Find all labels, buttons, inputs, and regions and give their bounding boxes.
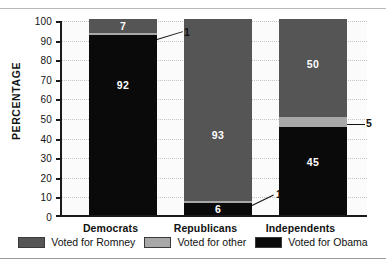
bar-segment-rep-romney[interactable]: 93 [184,19,252,201]
y-tick-mark-90 [56,41,62,43]
legend-label-other: Voted for other [177,236,246,248]
bar-segment-ind-obama[interactable]: 45 [279,127,347,215]
y-tick-mark-50 [56,119,62,121]
top-divider-rule [0,8,386,9]
y-tick-70: 70 [40,76,52,86]
callout-rep-other: 1 [276,189,282,200]
bar-value-ind-romney: 50 [307,59,319,70]
legend-swatch-obama-icon [255,237,282,248]
y-axis-tick-labels: 100 90 80 70 60 50 40 30 20 10 0 [0,21,52,217]
chart-figure: PERCENTAGE 100 90 80 70 60 50 40 30 20 1… [0,0,386,270]
y-tick-mark-100 [56,21,62,23]
plot-area: 7 1 92 93 1 6 50 [60,21,367,217]
legend-label-romney: Voted for Romney [51,236,135,248]
y-tick-mark-20 [56,178,62,180]
y-tick-mark-40 [56,139,62,141]
bar-value-rep-obama: 6 [215,204,221,215]
y-tick-50: 50 [40,115,52,125]
legend-swatch-romney-icon [18,237,45,248]
bar-segment-dem-romney[interactable]: 7 [89,19,157,33]
y-tick-100: 100 [35,17,52,27]
y-tick-mark-10 [56,197,62,199]
bar-republicans[interactable]: 93 1 6 [184,19,252,215]
bar-value-rep-romney: 93 [212,130,224,141]
x-label-independents: Independents [237,222,364,234]
y-tick-mark-0 [56,215,62,217]
legend-item-obama[interactable]: Voted for Obama [255,236,367,248]
legend-item-romney[interactable]: Voted for Romney [18,236,135,248]
leader-line-rep-other [252,195,274,206]
legend-label-obama: Voted for Obama [288,236,367,248]
bar-segment-ind-romney[interactable]: 50 [279,19,347,117]
bar-democrats[interactable]: 7 1 92 [89,19,157,215]
leader-line-dem-other [157,31,183,40]
bottom-divider-rule [0,258,386,259]
bar-segment-rep-obama[interactable]: 6 [184,203,252,215]
chart-legend: Voted for Romney Voted for other Voted f… [0,236,386,248]
y-tick-10: 10 [40,193,52,203]
bar-value-dem-romney: 7 [120,21,126,32]
bar-value-ind-obama: 45 [307,157,319,168]
y-tick-mark-70 [56,80,62,82]
y-tick-60: 60 [40,95,52,105]
y-tick-40: 40 [40,135,52,145]
bar-segment-dem-obama[interactable]: 92 [89,35,157,215]
bar-value-dem-obama: 92 [117,80,129,91]
y-tick-80: 80 [40,56,52,66]
callout-dem-other: 1 [184,27,190,38]
y-tick-mark-80 [56,60,62,62]
y-tick-90: 90 [40,37,52,47]
legend-item-other[interactable]: Voted for other [144,236,246,248]
leader-line-ind-other [347,124,365,125]
y-tick-mark-60 [56,99,62,101]
y-tick-20: 20 [40,174,52,184]
callout-ind-other: 5 [366,118,372,129]
y-tick-mark-30 [56,158,62,160]
legend-swatch-other-icon [144,237,171,248]
y-tick-30: 30 [40,154,52,164]
bar-independents[interactable]: 50 5 45 [279,19,347,215]
bar-segment-ind-other[interactable]: 5 [279,117,347,127]
